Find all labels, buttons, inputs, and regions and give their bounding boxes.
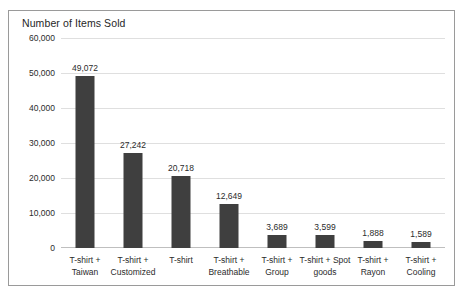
x-axis-category-label-line: T-shirt + (346, 255, 400, 267)
bar-group[interactable]: 3,689T-shirt +Group (253, 38, 301, 248)
bar-value-label: 1,589 (410, 229, 431, 239)
y-axis-tick-label: 60,000 (29, 33, 55, 43)
bar-group[interactable]: 1,589T-shirt +Cooling (397, 38, 445, 248)
y-axis-tick-label: 0 (50, 243, 55, 253)
bar[interactable] (76, 76, 95, 248)
x-axis-category-label-line: T-shirt + Spot (298, 255, 352, 267)
bar[interactable] (124, 153, 143, 248)
y-axis-tick-label: 20,000 (29, 173, 55, 183)
plot-area: 010,00020,00030,00040,00050,00060,000 49… (61, 38, 445, 248)
x-axis-category-label-line: T-shirt + (202, 255, 256, 267)
chart-title: Number of Items Sold (22, 17, 126, 29)
x-axis-category-label: T-shirt +Group (250, 255, 304, 278)
bar[interactable] (316, 235, 335, 248)
x-axis-category-label-line: T-shirt + (394, 255, 448, 267)
x-axis-category-label-line: Breathable (202, 267, 256, 279)
bar-group[interactable]: 20,718T-shirt (157, 38, 205, 248)
bar[interactable] (172, 176, 191, 249)
bar-group[interactable]: 27,242T-shirt +Customized (109, 38, 157, 248)
x-axis-category-label: T-shirt + Spotgoods (298, 255, 352, 278)
bar-value-label: 27,242 (120, 140, 146, 150)
bar-value-label: 49,072 (72, 63, 98, 73)
bar-group[interactable]: 3,599T-shirt + Spotgoods (301, 38, 349, 248)
bar-group[interactable]: 1,888T-shirt +Rayon (349, 38, 397, 248)
x-axis-category-label-line: T-shirt + (106, 255, 160, 267)
bar-value-label: 12,649 (216, 191, 242, 201)
x-axis-category-label-line: Cooling (394, 267, 448, 279)
bar-value-label: 3,689 (266, 222, 287, 232)
x-axis-category-label: T-shirt +Taiwan (58, 255, 112, 278)
bar[interactable] (364, 241, 383, 248)
bar-group[interactable]: 12,649T-shirt +Breathable (205, 38, 253, 248)
y-axis-tick-label: 50,000 (29, 68, 55, 78)
bar[interactable] (220, 204, 239, 248)
bar-value-label: 1,888 (362, 228, 383, 238)
bar[interactable] (412, 242, 431, 248)
x-axis-category-label-line: T-shirt + (58, 255, 112, 267)
x-axis-category-label-line: goods (298, 267, 352, 279)
x-axis-category-label-line: Group (250, 267, 304, 279)
x-axis-category-label-line: T-shirt + (250, 255, 304, 267)
y-axis-tick-label: 30,000 (29, 138, 55, 148)
x-axis-category-label: T-shirt +Customized (106, 255, 160, 278)
bar-value-label: 20,718 (168, 163, 194, 173)
x-axis-category-label: T-shirt +Breathable (202, 255, 256, 278)
x-axis-category-label-line: Customized (106, 267, 160, 279)
x-axis-category-label: T-shirt +Cooling (394, 255, 448, 278)
x-axis-category-label-line: Taiwan (58, 267, 112, 279)
y-axis-tick-label: 40,000 (29, 103, 55, 113)
bar-value-label: 3,599 (314, 222, 335, 232)
x-axis-category-label: T-shirt (154, 255, 208, 267)
x-axis-category-label-line: Rayon (346, 267, 400, 279)
y-axis-tick-label: 10,000 (29, 208, 55, 218)
x-axis-category-label: T-shirt +Rayon (346, 255, 400, 278)
chart-container: Number of Items Sold 010,00020,00030,000… (8, 10, 455, 286)
bar[interactable] (268, 235, 287, 248)
bar-group[interactable]: 49,072T-shirt +Taiwan (61, 38, 109, 248)
x-axis-category-label-line: T-shirt (154, 255, 208, 267)
